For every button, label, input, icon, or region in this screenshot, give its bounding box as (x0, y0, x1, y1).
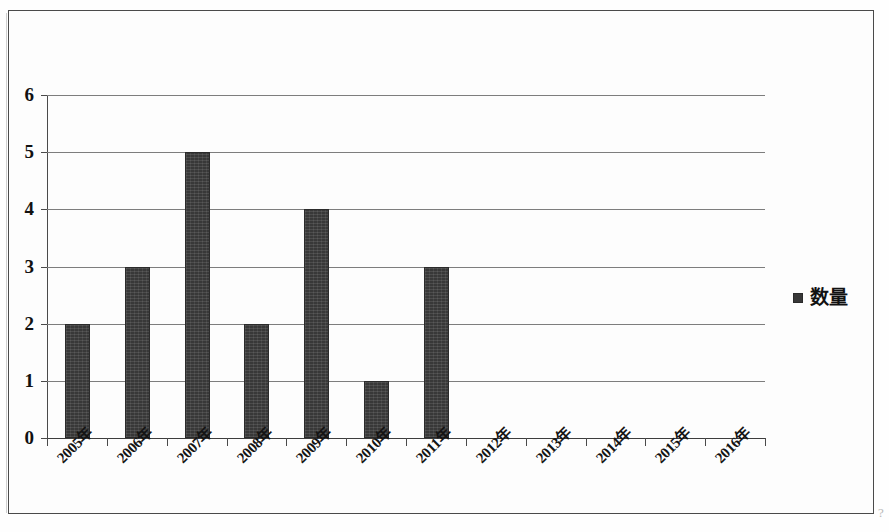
x-tick-mark (286, 438, 287, 446)
gridline-6 (47, 95, 765, 96)
gridline-4 (47, 209, 765, 210)
x-tick-mark (586, 438, 587, 446)
chart-figure: 0123456 2005年2006年2007年2008年2009年2010年20… (0, 0, 889, 532)
y-tick-label: 2 (4, 314, 34, 333)
scan-artifact: ? (878, 505, 884, 521)
y-tick-label: 6 (4, 85, 34, 104)
x-tick-mark (466, 438, 467, 446)
x-tick-mark (227, 438, 228, 446)
y-tick-label: 1 (4, 371, 34, 390)
x-tick-mark (167, 438, 168, 446)
gridline-5 (47, 152, 765, 153)
legend-label: 数量 (810, 288, 848, 307)
legend-swatch-icon (793, 293, 803, 303)
bar-2006年 (125, 267, 150, 439)
bar-2008年 (244, 324, 269, 438)
x-tick-mark (645, 438, 646, 446)
x-tick-mark (346, 438, 347, 446)
plot-area (47, 95, 765, 438)
x-tick-mark (47, 438, 48, 446)
gridline-3 (47, 267, 765, 268)
x-tick-mark (406, 438, 407, 446)
x-tick-mark (765, 438, 766, 446)
y-tick-label: 4 (4, 199, 34, 218)
y-tick-label: 0 (4, 428, 34, 447)
x-tick-mark (107, 438, 108, 446)
gridline-2 (47, 324, 765, 325)
x-tick-mark (705, 438, 706, 446)
y-tick-label: 5 (4, 142, 34, 161)
gridline-1 (47, 381, 765, 382)
bar-2007年 (185, 152, 210, 438)
x-tick-mark (526, 438, 527, 446)
legend: 数量 (793, 288, 848, 307)
y-tick-label: 3 (4, 257, 34, 276)
bar-2005年 (65, 324, 90, 438)
bar-2011年 (424, 267, 449, 439)
bar-2009年 (304, 209, 329, 438)
